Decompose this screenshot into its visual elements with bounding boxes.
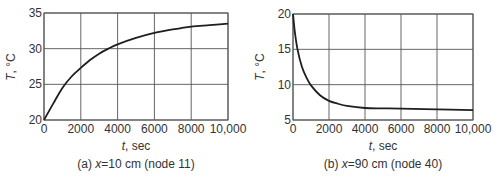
y-tick-label: 10 (278, 78, 292, 92)
y-tick-label: 15 (278, 42, 292, 56)
y-tick-label: 20 (278, 7, 292, 21)
y-tick-label: 35 (29, 6, 43, 20)
chart-b-caption-rest: =90 cm (node 40) (348, 157, 442, 171)
chart-a-ylabel-unit: , °C (4, 53, 18, 73)
x-tick-label: 2000 (67, 122, 94, 136)
chart-b-x-tick-labels: 0200040006000800010,000 (290, 122, 492, 136)
x-tick-label: 4000 (104, 122, 131, 136)
chart-b-caption: (b) x=90 cm (node 40) (324, 157, 442, 171)
chart-b-plot-frame (293, 14, 473, 120)
chart-a-caption-rest: =10 cm (node 11) (101, 157, 195, 171)
chart-a-xlabel-unit: , sec (125, 139, 150, 153)
chart-b-ylabel-unit: , °C (253, 53, 267, 73)
chart-a-y-tick-labels: 20253035 (29, 6, 43, 127)
chart-a-caption: (a) x=10 cm (node 11) (77, 157, 195, 171)
figure-canvas: 0200040006000800010,000 20253035 T, °C t… (0, 0, 498, 179)
chart-a-x-axis-label: t, sec (122, 139, 151, 153)
chart-a-y-axis-label: T, °C (4, 53, 18, 81)
chart-a-plot-frame (44, 13, 228, 120)
chart-b-caption-prefix: (b) (324, 157, 339, 171)
x-tick-label: 8000 (178, 122, 205, 136)
x-tick-label: 10,000 (455, 122, 492, 136)
y-tick-label: 25 (29, 77, 43, 91)
chart-b-xlabel-unit: , sec (372, 139, 397, 153)
chart-a-gridlines (44, 13, 228, 120)
chart-a: 0200040006000800010,000 20253035 T, °C t… (4, 6, 247, 171)
chart-b: 0200040006000800010,000 5101520 T, °C t,… (253, 7, 492, 171)
chart-b-gridlines (293, 14, 473, 120)
chart-a-x-tick-labels: 0200040006000800010,000 (41, 122, 247, 136)
chart-b-y-axis-label: T, °C (253, 53, 267, 81)
x-tick-label: 2000 (316, 122, 343, 136)
x-tick-label: 4000 (352, 122, 379, 136)
chart-a-caption-prefix: (a) (77, 157, 92, 171)
x-tick-label: 6000 (141, 122, 168, 136)
y-tick-label: 20 (29, 113, 43, 127)
y-tick-label: 30 (29, 42, 43, 56)
x-tick-label: 10,000 (210, 122, 247, 136)
chart-b-x-axis-label: t, sec (369, 139, 398, 153)
chart-b-y-tick-labels: 5101520 (278, 7, 292, 127)
x-tick-label: 8000 (424, 122, 451, 136)
y-tick-label: 5 (284, 113, 291, 127)
x-tick-label: 6000 (388, 122, 415, 136)
chart-b-temperature-curve (293, 14, 473, 110)
chart-a-temperature-curve (44, 24, 228, 120)
